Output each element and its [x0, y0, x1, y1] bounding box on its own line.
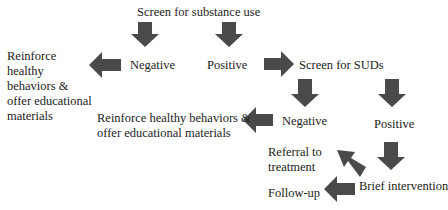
referral-line: Referral to [268, 145, 322, 160]
node-follow-up: Follow-up [268, 186, 320, 201]
arrow-up-left-icon [337, 150, 366, 177]
arrow-down-icon [215, 22, 243, 47]
node-reinforce-1: Reinforce healthy behaviors & offer educ… [7, 49, 92, 124]
reinforce-1-line: healthy [7, 64, 92, 79]
arrow-down-icon [291, 79, 319, 107]
reinforce-1-line: behaviors & [7, 79, 92, 94]
node-negative-1: Negative [130, 58, 175, 73]
arrow-down-icon [378, 79, 406, 107]
node-brief-intervention: Brief intervention [359, 179, 448, 194]
node-referral-to-treatment: Referral to treatment [268, 145, 322, 175]
reinforce-2-line: Reinforce healthy behaviors & [97, 111, 251, 126]
reinforce-2-line: offer educational materials [97, 126, 251, 141]
node-reinforce-2: Reinforce healthy behaviors & offer educ… [97, 111, 251, 141]
node-screen-substance-use: Screen for substance use [137, 5, 260, 20]
arrow-down-icon [377, 142, 405, 170]
node-positive-2: Positive [374, 117, 414, 132]
reinforce-1-line: materials [7, 109, 92, 124]
reinforce-1-line: Reinforce [7, 49, 92, 64]
referral-line: treatment [268, 160, 322, 175]
arrow-left-icon [324, 176, 355, 202]
reinforce-1-line: offer educational [7, 94, 92, 109]
arrow-right-icon [264, 51, 294, 77]
node-screen-suds: Screen for SUDs [299, 58, 384, 73]
node-positive-1: Positive [207, 58, 247, 73]
node-negative-2: Negative [282, 114, 327, 129]
arrow-left-icon [89, 52, 121, 78]
arrow-down-icon [131, 22, 159, 47]
